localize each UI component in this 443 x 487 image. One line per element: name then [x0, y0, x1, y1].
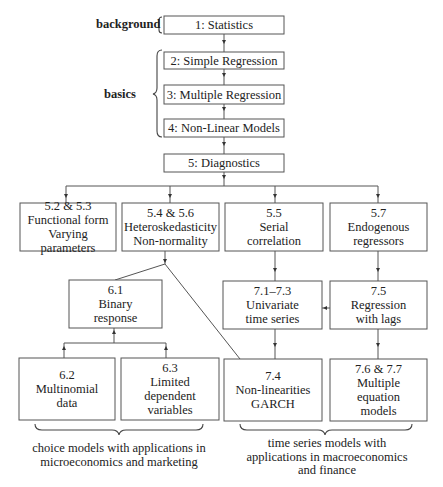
- arrow-head: [222, 40, 226, 44]
- node-line: variables: [147, 403, 192, 417]
- arrow-head: [164, 346, 168, 350]
- arrow-head: [376, 343, 380, 347]
- node-line: regressors: [353, 234, 404, 248]
- node-4: 4: Non-Linear Models: [164, 119, 284, 137]
- node-4-title: 4: Non-Linear Models: [168, 121, 280, 135]
- node-1: 1: Statistics: [164, 16, 284, 34]
- arrow-head: [222, 73, 226, 77]
- edge-junction-61: [115, 264, 165, 280]
- node-line: Serial: [259, 220, 288, 234]
- arrow-head: [376, 268, 380, 272]
- node-line: 6.1: [108, 283, 124, 297]
- node-line: Limited: [150, 375, 190, 389]
- node-line: Regression: [351, 298, 407, 312]
- node-5-title: 5: Diagnostics: [188, 156, 260, 170]
- arrow-head: [163, 259, 167, 263]
- node-7-5: 7.5 Regression with lags: [330, 281, 427, 329]
- node-line: 5.4 & 5.6: [147, 206, 194, 220]
- node-5-4: 5.4 & 5.6 Heteroskedasticity Non-normali…: [122, 203, 219, 251]
- caption-line: time series models with: [222, 437, 432, 451]
- node-line: correlation: [247, 234, 301, 248]
- node-line: models: [360, 404, 396, 418]
- node-6-1: 6.1 Binary response: [69, 280, 162, 328]
- node-7-4: 7.4 Non-linearities GARCH: [224, 359, 322, 421]
- arrow-head: [273, 194, 277, 198]
- node-line: time series: [246, 312, 300, 326]
- node-line: Varying parameters: [20, 227, 116, 255]
- node-line: dependent: [144, 389, 195, 403]
- node-6-2: 6.2 Multinomial data: [19, 358, 115, 420]
- caption-line: choice models with applications in: [14, 442, 224, 456]
- arrow-head: [168, 194, 172, 198]
- basics-brace: [153, 50, 162, 137]
- arrow-head: [222, 107, 226, 111]
- node-line: Endogenous: [348, 220, 410, 234]
- arrow-head: [376, 194, 380, 198]
- node-line: 5.2 & 5.3: [44, 199, 91, 213]
- node-7-1: 7.1–7.3 Univariate time series: [223, 281, 322, 329]
- node-2-title: 2: Simple Regression: [171, 54, 278, 68]
- node-line: 5.7: [371, 206, 387, 220]
- arrow-head: [222, 175, 226, 179]
- node-1-title: 1: Statistics: [195, 18, 253, 32]
- node-line: Binary: [98, 297, 132, 311]
- caption-choice-models: choice models with applications in micro…: [14, 442, 224, 469]
- node-line: Multiple: [357, 376, 400, 390]
- caption-time-series-models: time series models with applications in …: [222, 437, 432, 478]
- arrow-head: [323, 306, 327, 310]
- node-line: data: [57, 396, 78, 410]
- arrow-head: [112, 330, 116, 334]
- caption-line: microeconomics and marketing: [14, 456, 224, 470]
- node-5: 5: Diagnostics: [164, 154, 284, 172]
- node-line: equation: [357, 390, 400, 404]
- node-3: 3: Multiple Regression: [164, 85, 284, 104]
- arrow-head: [64, 194, 68, 198]
- node-line: Non-normality: [133, 234, 207, 248]
- node-5-7: 5.7 Endogenous regressors: [330, 203, 427, 251]
- label-background: background: [96, 17, 160, 32]
- label-basics: basics: [104, 87, 136, 102]
- caption-line: applications in macroeconomics: [222, 451, 432, 465]
- arrow-head: [273, 343, 277, 347]
- node-line: 7.1–7.3: [254, 284, 292, 298]
- node-line: with lags: [356, 312, 401, 326]
- node-7-6: 7.6 & 7.7 Multiple equation models: [330, 359, 427, 421]
- node-line: 6.3: [162, 361, 178, 375]
- node-2: 2: Simple Regression: [164, 52, 284, 69]
- node-line: Univariate: [246, 298, 299, 312]
- node-6-3: 6.3 Limited dependent variables: [121, 358, 219, 420]
- node-line: GARCH: [251, 397, 295, 411]
- arrow-head: [273, 268, 277, 272]
- node-5-2: 5.2 & 5.3 Functional form Varying parame…: [20, 203, 116, 251]
- node-line: 7.4: [265, 369, 281, 383]
- node-line: response: [94, 311, 138, 325]
- node-line: Functional form: [28, 213, 109, 227]
- arrow-head: [222, 142, 226, 146]
- caption-line: and finance: [222, 464, 432, 478]
- node-line: 5.5: [266, 206, 282, 220]
- node-line: Heteroskedasticity: [124, 220, 217, 234]
- node-line: 7.6 & 7.7: [355, 362, 402, 376]
- node-line: Multinomial: [36, 382, 99, 396]
- node-line: 7.5: [371, 284, 387, 298]
- arrow-head: [62, 346, 66, 350]
- choice-brace: [35, 424, 203, 435]
- timeseries-brace: [240, 424, 412, 435]
- node-line: Non-linearities: [236, 383, 311, 397]
- node-line: 6.2: [59, 368, 75, 382]
- node-3-title: 3: Multiple Regression: [167, 88, 282, 102]
- node-5-5: 5.5 Serial correlation: [225, 203, 323, 251]
